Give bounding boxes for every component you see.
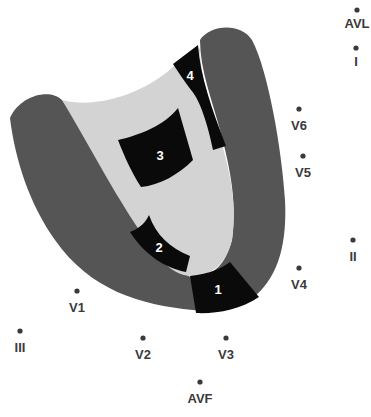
lead-dot (300, 153, 305, 158)
lead-v4: V4 (291, 265, 308, 292)
lead-dot (296, 106, 301, 111)
lead-label: II (349, 249, 356, 264)
lead-label: V5 (295, 165, 311, 180)
lead-v6: V6 (291, 106, 307, 133)
lead-label: V4 (291, 277, 308, 292)
lead-v3: V3 (218, 335, 234, 362)
lead-avl: AVL (344, 7, 369, 31)
lead-v1: V1 (69, 288, 85, 315)
lead-label: V6 (291, 118, 307, 133)
segment-2-label: 2 (155, 240, 162, 255)
segment-4-label: 4 (186, 68, 194, 83)
lead-dot (223, 335, 228, 340)
lead-label: I (354, 54, 358, 69)
lead-label: V1 (69, 300, 85, 315)
lead-label: III (15, 340, 26, 355)
lead-dot (296, 265, 301, 270)
lead-dot (17, 328, 22, 333)
lead-label: V2 (135, 347, 151, 362)
lead-dot (74, 288, 79, 293)
lead-dot (353, 45, 358, 50)
lead-ii: II (349, 237, 356, 264)
lead-i: I (353, 45, 358, 69)
lead-dot (350, 237, 355, 242)
lead-label: V3 (218, 347, 234, 362)
lead-v5: V5 (295, 153, 311, 180)
lead-label: AVL (344, 16, 369, 31)
heart-diagram: 4 3 2 1 AVL I V6 V5 II V4 V1 III V2 V3 (0, 0, 371, 417)
lead-v2: V2 (135, 335, 151, 362)
segment-1-label: 1 (214, 282, 221, 297)
lead-dot (354, 7, 359, 12)
lead-dot (197, 379, 202, 384)
lead-dot (140, 335, 145, 340)
segment-3-label: 3 (156, 148, 163, 163)
lead-avf: AVF (187, 379, 212, 406)
lead-iii: III (15, 328, 26, 355)
lead-label: AVF (187, 391, 212, 406)
